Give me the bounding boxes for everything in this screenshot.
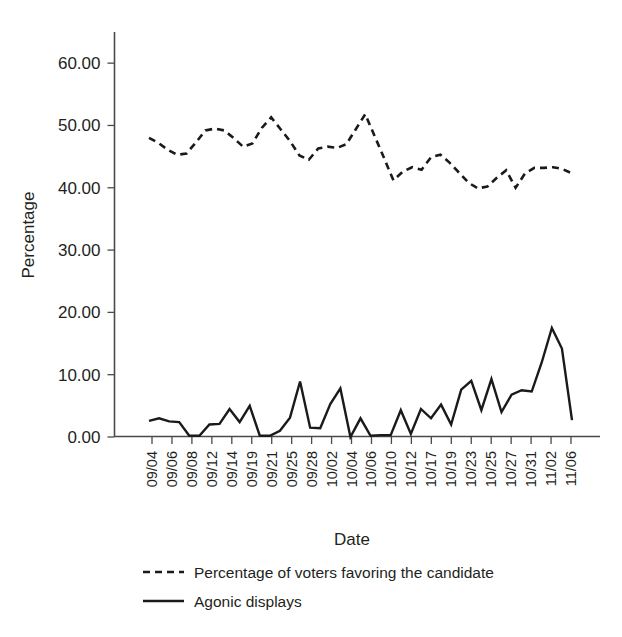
- y-tick-label: 0.00: [67, 428, 100, 447]
- x-tick-label: 09/14: [224, 451, 240, 487]
- x-tick-label: 09/28: [304, 451, 320, 487]
- x-tick-label: 10/06: [363, 451, 379, 487]
- x-tick-label: 10/25: [483, 451, 499, 487]
- x-tick-label: 09/04: [144, 451, 160, 487]
- x-tick-label: 10/19: [443, 451, 459, 487]
- y-axis-tick-labels: 0.0010.0020.0030.0040.0050.0060.00: [58, 54, 101, 447]
- y-tick-label: 40.00: [58, 179, 101, 198]
- x-tick-label: 09/19: [244, 451, 260, 487]
- y-tick-label: 60.00: [58, 54, 101, 73]
- chart-legend: Percentage of voters favoring the candid…: [143, 564, 494, 610]
- y-tick-label: 10.00: [58, 366, 101, 385]
- line-chart-svg: 0.0010.0020.0030.0040.0050.0060.00 09/04…: [0, 0, 622, 637]
- y-tick-label: 20.00: [58, 303, 101, 322]
- x-tick-label: 09/12: [204, 451, 220, 487]
- series-line-percentage-of-voters: [149, 114, 572, 188]
- x-tick-label: 11/06: [563, 451, 579, 486]
- legend-label-voters: Percentage of voters favoring the candid…: [194, 564, 494, 581]
- y-tick-label: 50.00: [58, 116, 101, 135]
- x-tick-label: 10/27: [503, 451, 519, 487]
- x-tick-label: 11/02: [543, 451, 559, 486]
- x-tick-label: 09/06: [164, 451, 180, 487]
- x-tick-label: 10/02: [324, 451, 340, 487]
- y-axis-ticks: [108, 63, 115, 437]
- x-axis-title: Date: [334, 530, 370, 549]
- x-tick-label: 10/12: [403, 451, 419, 487]
- x-tick-label: 10/17: [423, 451, 439, 487]
- x-tick-label: 09/08: [184, 451, 200, 487]
- x-axis-tick-labels: 09/0409/0609/0809/1209/1409/1909/2109/25…: [144, 451, 579, 487]
- x-axis-ticks: [152, 437, 571, 444]
- x-tick-label: 09/21: [264, 451, 280, 487]
- y-axis-title: Percentage: [19, 192, 38, 279]
- x-tick-label: 09/25: [284, 451, 300, 487]
- x-tick-label: 10/10: [383, 451, 399, 487]
- chart-figure: 0.0010.0020.0030.0040.0050.0060.00 09/04…: [0, 0, 622, 637]
- x-tick-label: 10/23: [463, 451, 479, 487]
- x-tick-label: 10/31: [523, 451, 539, 487]
- legend-label-agonic: Agonic displays: [194, 593, 302, 610]
- x-tick-label: 10/04: [344, 451, 360, 487]
- series-line-agonic-displays: [149, 328, 572, 437]
- y-tick-label: 30.00: [58, 241, 101, 260]
